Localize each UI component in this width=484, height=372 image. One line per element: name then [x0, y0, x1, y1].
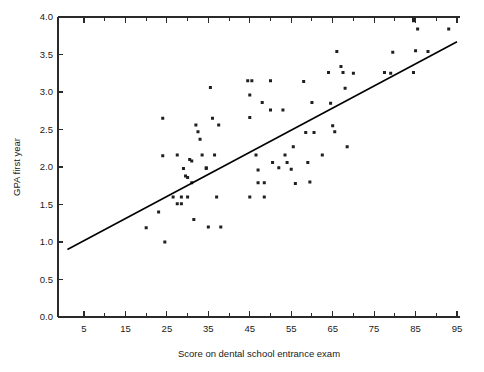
data-point — [261, 101, 264, 104]
data-point — [284, 154, 287, 157]
data-point — [196, 130, 199, 133]
data-point — [257, 169, 260, 172]
data-point — [250, 79, 253, 82]
y-tick-label: 0.5 — [40, 274, 53, 285]
data-point — [346, 145, 349, 148]
data-point — [333, 130, 336, 133]
data-point — [246, 79, 249, 82]
data-point — [263, 181, 266, 184]
data-point — [308, 181, 311, 184]
data-point — [186, 196, 189, 199]
data-point — [269, 109, 272, 112]
x-tick-label: 75 — [369, 323, 380, 334]
y-tick-label: 2.5 — [40, 124, 53, 135]
data-point — [294, 182, 297, 185]
data-point — [281, 109, 284, 112]
scatter-chart-figure: 5152535455565758595 0.00.51.01.52.02.53.… — [0, 0, 484, 372]
data-point — [207, 226, 210, 229]
y-axis-ticks — [58, 17, 63, 317]
x-tick-label: 45 — [244, 323, 255, 334]
data-point — [199, 138, 202, 141]
data-point — [211, 117, 214, 120]
y-tick-label: 0.0 — [40, 311, 53, 322]
data-point — [201, 154, 204, 157]
y-axis-tick-labels: 0.00.51.01.52.02.53.03.54.0 — [40, 11, 53, 322]
x-tick-label: 95 — [452, 323, 463, 334]
data-point — [335, 50, 338, 53]
data-point — [263, 196, 266, 199]
plot-svg: 5152535455565758595 0.00.51.01.52.02.53.… — [0, 0, 484, 372]
data-point — [321, 154, 324, 157]
data-point — [172, 196, 175, 199]
y-axis-title: GPA first year — [11, 138, 22, 196]
x-tick-label: 35 — [203, 323, 214, 334]
x-tick-label: 25 — [162, 323, 173, 334]
x-tick-label: 65 — [327, 323, 338, 334]
data-point — [176, 154, 179, 157]
data-point — [161, 154, 164, 157]
data-point — [192, 218, 195, 221]
data-point — [414, 49, 417, 52]
data-point — [257, 181, 260, 184]
data-point — [389, 72, 392, 75]
y-tick-label: 2.0 — [40, 161, 53, 172]
data-point — [182, 167, 185, 170]
data-point — [248, 196, 251, 199]
data-point — [416, 28, 419, 31]
data-point — [426, 50, 429, 53]
data-point — [391, 51, 394, 54]
data-point — [180, 196, 183, 199]
x-axis-title: Score on dental school entrance exam — [178, 348, 340, 359]
data-point — [383, 71, 386, 74]
data-point — [302, 80, 305, 83]
data-point — [163, 241, 166, 244]
data-point — [271, 161, 274, 164]
data-point — [310, 101, 313, 104]
data-point — [412, 18, 415, 21]
data-point — [447, 28, 450, 31]
data-point — [304, 131, 307, 134]
data-point — [248, 94, 251, 97]
data-point — [180, 202, 183, 205]
data-point — [286, 161, 289, 164]
data-point — [209, 86, 212, 89]
data-point — [161, 117, 164, 120]
data-point — [290, 168, 293, 171]
x-axis-tick-labels: 5152535455565758595 — [81, 323, 462, 334]
data-point — [292, 145, 295, 148]
data-point — [215, 196, 218, 199]
data-point — [269, 79, 272, 82]
x-tick-label: 15 — [120, 323, 131, 334]
axis-group — [58, 17, 460, 317]
data-point — [306, 161, 309, 164]
x-tick-label: 85 — [410, 323, 421, 334]
x-tick-label: 55 — [286, 323, 297, 334]
data-point — [277, 166, 280, 169]
data-point — [248, 116, 251, 119]
data-point — [412, 71, 415, 74]
y-tick-label: 3.5 — [40, 49, 53, 60]
data-point — [254, 154, 257, 157]
data-point — [329, 102, 332, 105]
data-point — [145, 226, 148, 229]
data-point — [213, 154, 216, 157]
data-point — [157, 211, 160, 214]
x-tick-label: 5 — [81, 323, 86, 334]
data-point — [205, 167, 208, 170]
data-point — [176, 202, 179, 205]
y-tick-label: 3.0 — [40, 86, 53, 97]
regression-trendline — [67, 42, 457, 250]
data-points-layer — [145, 18, 451, 244]
data-point — [344, 87, 347, 90]
data-point — [342, 71, 345, 74]
data-point — [327, 71, 330, 74]
data-point — [313, 131, 316, 134]
data-point — [331, 124, 334, 127]
data-point — [219, 226, 222, 229]
y-tick-label: 1.0 — [40, 236, 53, 247]
y-tick-label: 4.0 — [40, 11, 53, 22]
data-point — [339, 65, 342, 68]
data-point — [352, 72, 355, 75]
data-point — [190, 160, 193, 163]
y-tick-label: 1.5 — [40, 199, 53, 210]
